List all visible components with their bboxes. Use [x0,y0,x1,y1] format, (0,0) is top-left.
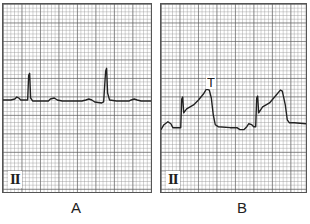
ecg-panel-b: T II [160,3,307,193]
panel-caption-a: A [71,199,81,216]
ecg-trace-a [3,4,151,192]
ecg-trace-b [161,4,306,192]
ecg-panel-a: II [2,3,152,193]
panel-caption-b: B [237,199,247,216]
lead-label-a: II [8,171,22,188]
t-wave-annotation: T [206,76,216,89]
lead-label-b: II [166,171,180,188]
